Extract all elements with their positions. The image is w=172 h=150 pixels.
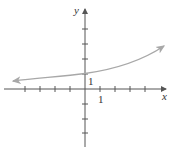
function-graph: y x 1 1 (0, 0, 172, 150)
y-tick-label-1: 1 (88, 75, 94, 87)
x-tick-label-1: 1 (98, 93, 104, 105)
y-axis-label: y (73, 4, 79, 16)
graph-canvas: y x 1 1 (0, 0, 172, 150)
x-axis-label: x (161, 90, 167, 102)
